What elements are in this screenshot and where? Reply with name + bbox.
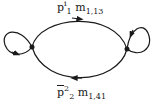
edge-top-arrow <box>72 18 80 19</box>
m-symbol: m <box>78 86 88 99</box>
p-symbol: p <box>57 1 64 14</box>
self-loop-left <box>4 32 32 54</box>
self-loop-right <box>127 28 150 53</box>
edge-top <box>32 21 127 49</box>
edge-bottom <box>32 47 127 78</box>
m-symbol: m <box>75 1 85 14</box>
edge-bottom-label: p22 m1,41 <box>57 87 106 98</box>
p-bar-symbol: p <box>57 86 64 99</box>
edge-top-label: pi1 m1,13 <box>57 2 103 13</box>
node-left <box>30 45 35 50</box>
node-right <box>125 47 130 52</box>
